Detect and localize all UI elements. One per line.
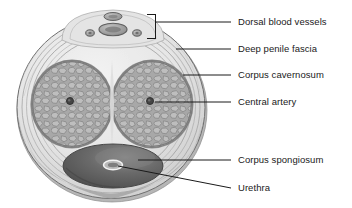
label-corpus-spongiosum: Corpus spongiosum bbox=[238, 154, 323, 165]
corpus-spongiosum-group bbox=[63, 144, 163, 188]
label-dorsal-blood-vessels: Dorsal blood vessels bbox=[238, 16, 327, 27]
label-central-artery: Central artery bbox=[238, 96, 296, 107]
dorsal-blood-vessels-group bbox=[62, 10, 164, 48]
label-urethra: Urethra bbox=[238, 182, 270, 193]
label-corpus-cavernosum: Corpus cavernosum bbox=[238, 69, 324, 80]
anatomical-figure: Dorsal blood vessels Deep penile fascia … bbox=[0, 0, 352, 208]
label-deep-penile-fascia: Deep penile fascia bbox=[238, 43, 317, 54]
penis-cross-section-illustration bbox=[0, 0, 352, 208]
